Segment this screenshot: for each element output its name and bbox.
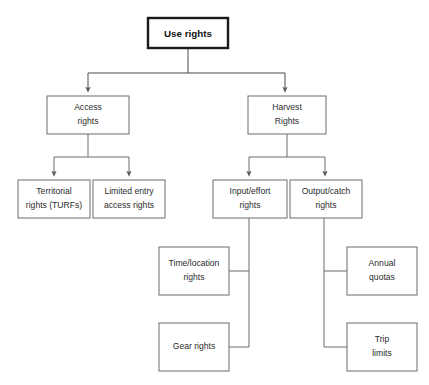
node-time-location-rights[interactable]: Time/location rights xyxy=(159,247,229,295)
node-label-gear-rights: Gear rights xyxy=(173,341,216,351)
node-label-territorial-rights-line1: Territorial xyxy=(36,186,71,196)
use-rights-diagram: Use rights Access rights Harvest Rights … xyxy=(0,0,429,385)
node-label-access-rights-line2: rights xyxy=(77,116,98,126)
node-label-territorial-rights-line2: rights (TURFs) xyxy=(26,200,82,210)
node-label-annual-quotas-line2: quotas xyxy=(369,272,395,282)
edge-group-input-effort-to-children xyxy=(229,218,249,347)
node-label-input-effort-line1: Input/effort xyxy=(230,186,272,196)
node-access-rights[interactable]: Access rights xyxy=(47,96,129,134)
node-trip-limits[interactable]: Trip limits xyxy=(347,323,417,371)
node-output-catch-rights[interactable]: Output/catch rights xyxy=(290,180,362,218)
node-input-effort-rights[interactable]: Input/effort rights xyxy=(213,180,287,218)
node-limited-entry-access-rights[interactable]: Limited entry access rights xyxy=(93,180,165,218)
node-label-trip-limits-line1: Trip xyxy=(375,334,390,344)
node-label-limited-entry-line2: access rights xyxy=(104,200,154,210)
node-label-access-rights-line1: Access xyxy=(74,102,102,112)
node-label-trip-limits-line2: limits xyxy=(372,348,392,358)
node-label-harvest-rights-line2: Rights xyxy=(275,116,299,126)
node-label-limited-entry-line1: Limited entry xyxy=(104,186,154,196)
node-label-annual-quotas-line1: Annual xyxy=(369,258,396,268)
edge-group-harvest-to-children xyxy=(249,134,325,174)
edge-group-root-to-level2 xyxy=(88,48,285,90)
node-label-input-effort-line2: rights xyxy=(239,200,260,210)
node-gear-rights[interactable]: Gear rights xyxy=(159,323,229,371)
node-harvest-rights[interactable]: Harvest Rights xyxy=(248,96,326,134)
edge-group-access-to-children xyxy=(54,134,129,174)
edge-group-output-catch-to-children xyxy=(324,218,347,347)
node-use-rights[interactable]: Use rights xyxy=(148,18,228,48)
node-annual-quotas[interactable]: Annual quotas xyxy=(347,247,417,295)
node-label-time-location-line2: rights xyxy=(183,272,204,282)
node-label-use-rights: Use rights xyxy=(164,28,212,39)
flowchart-canvas: Use rights Access rights Harvest Rights … xyxy=(0,0,429,385)
node-label-output-catch-line2: rights xyxy=(315,200,336,210)
node-label-time-location-line1: Time/location xyxy=(169,258,220,268)
node-territorial-rights-turfs[interactable]: Territorial rights (TURFs) xyxy=(18,180,90,218)
node-label-output-catch-line1: Output/catch xyxy=(302,186,351,196)
node-label-harvest-rights-line1: Harvest xyxy=(272,102,302,112)
